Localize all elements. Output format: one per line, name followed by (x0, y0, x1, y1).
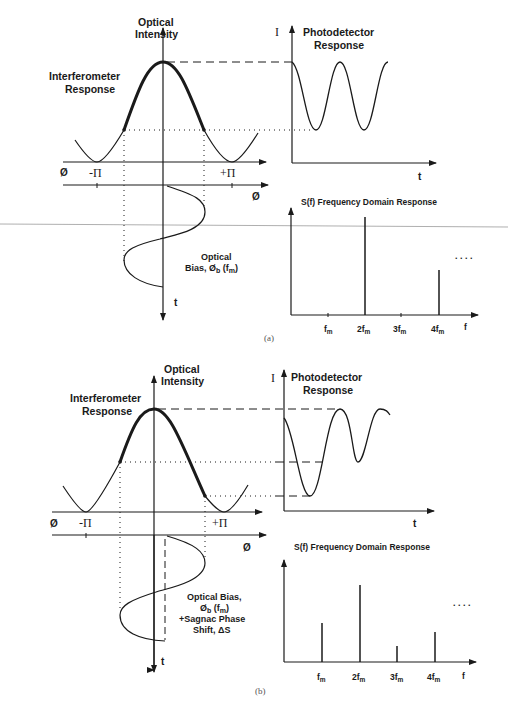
bias-label: Shift, ΔS (193, 625, 230, 635)
phase-symbol: Ø (50, 518, 58, 529)
neg-pi-label: -Π (79, 516, 92, 530)
interferometer-plot-a: Optical Intensity Interferometer Respons… (49, 16, 312, 300)
figure-caption: (b) (255, 686, 266, 696)
figure-b: Optical Intensity Interferometer Respons… (50, 363, 476, 696)
phase-symbol: Ø (252, 191, 260, 202)
neg-pi-label: -Π (89, 166, 102, 180)
ellipsis: . . . . (453, 598, 471, 608)
bias-waveform-b: Ø t Optical Bias, Øb (fm) +Sagnac Phase … (52, 533, 266, 670)
tick-label: 2fm (357, 324, 371, 335)
interferometer-curve-left (75, 130, 124, 162)
time-label: t (161, 656, 165, 667)
scan-artifact-line (0, 224, 508, 227)
bias-label: Øb (fm) (200, 603, 229, 614)
tick-label: 4fm (431, 324, 445, 335)
tick-label: 2fm (352, 672, 366, 683)
frequency-label: f (464, 322, 467, 332)
interferometer-curve-left (63, 462, 120, 512)
tick-label: fm (317, 672, 326, 683)
bias-label: +Sagnac Phase (179, 614, 245, 624)
photodetector-title: Photodetector (291, 371, 362, 383)
photodetector-title: Response (314, 39, 364, 51)
photodetector-plot-a: I Photodetector Response t (275, 25, 436, 182)
phase-symbol: Ø (60, 167, 68, 178)
photodetector-waveform (292, 62, 388, 130)
curve-label: Response (82, 405, 132, 417)
y-axis-label: Optical (138, 16, 174, 28)
photodetector-waveform (284, 409, 390, 496)
spectrum-title: S(f) Frequency Domain Response (301, 197, 437, 207)
bias-label: Bias, Øb (fm) (185, 263, 238, 274)
curve-label: Response (65, 83, 115, 95)
figure-caption: (a) (264, 333, 274, 343)
tick-label: fm (324, 324, 333, 335)
spectrum-title: S(f) Frequency Domain Response (294, 542, 430, 552)
y-axis-label: Intensity (161, 375, 204, 387)
tick-label: 3fm (393, 324, 407, 335)
curve-label: Interferometer (49, 70, 120, 82)
bias-label: Optical (201, 252, 232, 262)
photodetector-plot-b: I Photodetector Response t (271, 370, 434, 529)
intensity-label: I (271, 371, 275, 385)
time-label: t (174, 297, 178, 308)
photodetector-title: Photodetector (303, 26, 374, 38)
pos-pi-label: +Π (212, 516, 228, 530)
phase-symbol: Ø (243, 542, 251, 553)
bias-waveform-a: Ø t Optical Bias, Øb (fm) (63, 183, 268, 320)
spectrum-plot-b: S(f) Frequency Domain Response . . . . f… (284, 542, 476, 683)
time-label: t (413, 518, 417, 529)
diagram-canvas: Optical Intensity Interferometer Respons… (0, 0, 508, 702)
y-axis-label: Intensity (135, 28, 178, 40)
photodetector-title: Response (303, 384, 353, 396)
frequency-label: f (462, 671, 465, 681)
curve-label: Interferometer (70, 392, 141, 404)
pos-pi-label: +Π (220, 166, 236, 180)
ellipsis: . . . . (455, 251, 473, 261)
intensity-label: I (275, 25, 279, 39)
tick-label: 3fm (390, 672, 404, 683)
interferometer-curve-right (204, 130, 258, 162)
figure-a: Optical Intensity Interferometer Respons… (49, 16, 478, 343)
interferometer-curve-active (120, 409, 205, 496)
bias-label: Optical Bias, (187, 592, 242, 602)
y-axis-label: Optical (164, 363, 200, 375)
time-label: t (418, 171, 422, 182)
interferometer-curve-right (205, 485, 248, 512)
interferometer-curve-active (124, 62, 204, 130)
spectrum-plot-a: S(f) Frequency Domain Response . . . . f… (291, 197, 478, 335)
tick-label: 4fm (427, 672, 441, 683)
